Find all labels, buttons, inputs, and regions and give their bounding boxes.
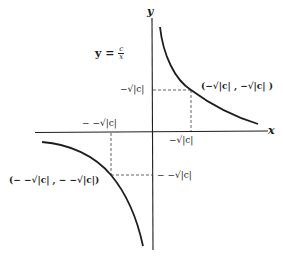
point-label-lower-left: (− −√|c| , − −√|c|) <box>9 176 99 185</box>
x-axis-label: x <box>268 125 275 136</box>
tick-label-x-positive: −√|c| <box>169 136 193 145</box>
equation-denominator: x <box>118 54 124 61</box>
point-label-upper-right: (−√|c| , −√|c| ) <box>201 82 273 91</box>
x-axis <box>35 131 268 133</box>
hyperbola-branch-upper-right <box>160 27 258 124</box>
plot-canvas <box>0 0 283 263</box>
hyperbola-diagram: y x y = c x −√|c| −√|c| − −√|c| − −√|c| … <box>0 0 283 263</box>
y-axis <box>152 18 153 250</box>
tick-label-y-positive: −√|c| <box>120 85 144 94</box>
hyperbola-branch-lower-left <box>42 142 143 246</box>
y-axis-label: y <box>147 6 153 17</box>
equation-fraction: c x <box>118 46 124 61</box>
equation-lhs: y = <box>95 47 114 60</box>
equation-label: y = c x <box>95 46 124 61</box>
tick-label-y-negative: − −√|c| <box>157 171 192 180</box>
tick-label-x-negative: − −√|c| <box>82 119 117 128</box>
